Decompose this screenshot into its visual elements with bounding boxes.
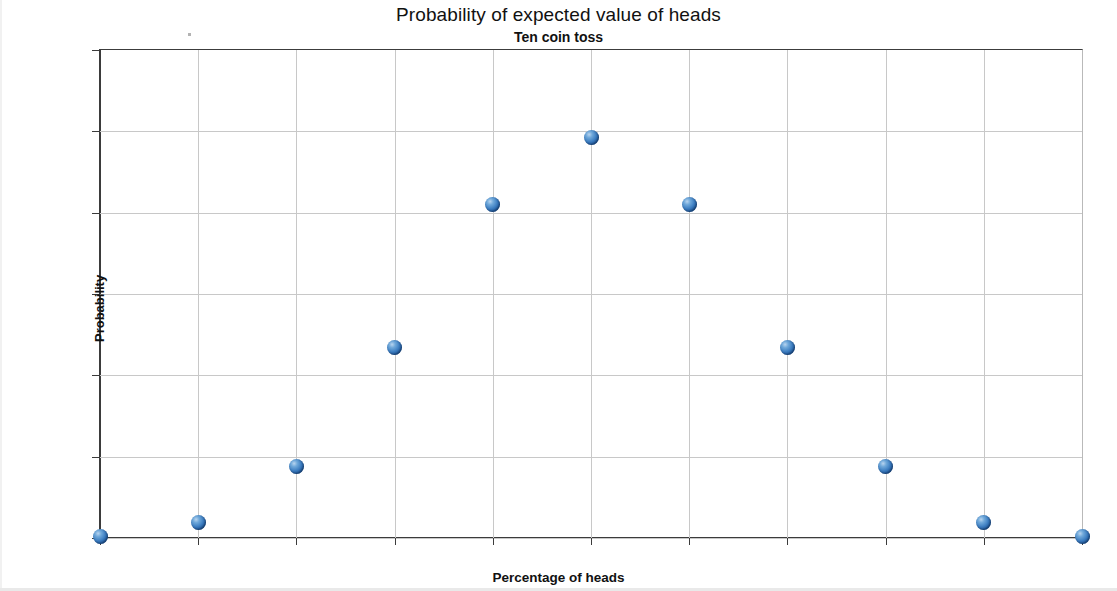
data-point-marker bbox=[1075, 529, 1090, 544]
y-axis-tick bbox=[92, 213, 100, 214]
data-point-marker bbox=[93, 529, 108, 544]
x-axis-tick bbox=[493, 538, 494, 545]
gridline-vertical bbox=[787, 50, 788, 538]
x-axis-tick bbox=[689, 538, 690, 545]
x-axis-tick bbox=[296, 538, 297, 545]
chart-container: Probability of expected value of heads T… bbox=[0, 0, 1117, 591]
scan-edge-artifact bbox=[0, 0, 2, 591]
x-axis-tick bbox=[984, 538, 985, 545]
gridline-vertical bbox=[395, 50, 396, 538]
x-axis-tick bbox=[591, 538, 592, 545]
data-point-marker bbox=[976, 515, 991, 530]
gridline-vertical bbox=[493, 50, 494, 538]
data-point-marker bbox=[387, 340, 402, 355]
y-axis-tick bbox=[92, 375, 100, 376]
x-axis-tick bbox=[886, 538, 887, 545]
data-point-marker bbox=[584, 130, 599, 145]
data-point-marker bbox=[878, 459, 893, 474]
data-point-marker bbox=[191, 515, 206, 530]
x-axis-title: Percentage of heads bbox=[0, 570, 1117, 585]
data-point-marker bbox=[682, 197, 697, 212]
y-axis-title: Probability bbox=[92, 275, 107, 342]
x-axis-tick bbox=[787, 538, 788, 545]
data-point-marker bbox=[289, 459, 304, 474]
gridline-vertical bbox=[198, 50, 199, 538]
data-point-marker bbox=[485, 197, 500, 212]
gridline-vertical bbox=[689, 50, 690, 538]
y-axis-tick bbox=[92, 50, 100, 51]
plot-area: 0.00%5.00%10.00%15.00%20.00%25.00%30.00%… bbox=[100, 49, 1083, 538]
x-axis-tick bbox=[395, 538, 396, 545]
gridline-vertical bbox=[984, 50, 985, 538]
chart-title: Probability of expected value of heads bbox=[0, 4, 1117, 26]
gridline-vertical bbox=[591, 50, 592, 538]
x-axis-tick bbox=[198, 538, 199, 545]
y-axis-tick bbox=[92, 131, 100, 132]
chart-subtitle: Ten coin toss bbox=[0, 29, 1117, 45]
data-point-marker bbox=[780, 340, 795, 355]
y-axis-tick bbox=[92, 457, 100, 458]
